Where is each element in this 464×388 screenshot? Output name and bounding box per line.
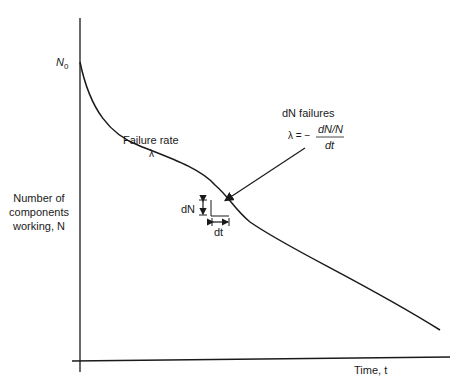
y-axis-label-3: working, N — [12, 220, 65, 232]
callout-title: dN failures — [282, 107, 335, 119]
failure-rate-label: Failure rate — [123, 134, 179, 146]
dn-label: dN — [181, 203, 195, 215]
y-intercept-label: N0 — [56, 56, 69, 71]
dt-label: dt — [214, 226, 223, 238]
survival-curve — [80, 62, 440, 330]
x-axis — [72, 357, 450, 361]
y-axis-label-2: components — [9, 206, 69, 218]
callout-numerator: dN/N — [318, 123, 343, 135]
callout-denominator: dt — [325, 139, 335, 151]
lambda-label: λ — [149, 148, 154, 159]
y-axis-label-1: Number of — [13, 192, 65, 204]
x-axis-label: Time, t — [354, 364, 387, 376]
callout-arrow — [226, 148, 305, 200]
reliability-diagram: N0 Failure rate λ dN failures λ = − dN/N… — [0, 0, 464, 388]
callout-lambda: λ = − — [288, 130, 310, 141]
